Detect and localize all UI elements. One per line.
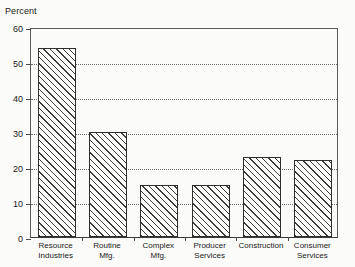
gridline — [31, 134, 337, 135]
gridline — [31, 204, 337, 205]
bar-chart: Percent 0102030405060 Resource Industrie… — [0, 0, 355, 267]
y-tick-label: 40 — [13, 94, 23, 104]
bar — [294, 160, 332, 237]
y-tick-label: 10 — [13, 199, 23, 209]
bar — [243, 157, 281, 238]
bar — [89, 132, 127, 237]
x-axis-label: Resource Industries — [30, 241, 81, 260]
y-tick-label: 20 — [13, 164, 23, 174]
y-tick-label: 0 — [18, 234, 23, 244]
x-axis-label: Complex Mfg. — [133, 241, 184, 260]
y-tick-mark — [26, 134, 31, 135]
y-tick-label: 30 — [13, 129, 23, 139]
x-axis-label: Consumer Services — [287, 241, 338, 260]
y-tick-label: 60 — [13, 24, 23, 34]
y-tick-label: 50 — [13, 59, 23, 69]
gridline — [31, 64, 337, 65]
x-axis-label: Routine Mfg. — [81, 241, 132, 260]
y-tick-mark — [26, 99, 31, 100]
y-tick-mark — [26, 64, 31, 65]
y-axis-title: Percent — [5, 6, 37, 16]
bar — [192, 185, 230, 238]
x-axis-label: Construction — [235, 241, 286, 251]
bar — [38, 48, 76, 237]
y-tick-mark — [26, 169, 31, 170]
gridline — [31, 169, 337, 170]
plot-area: 0102030405060 — [30, 28, 338, 238]
y-tick-mark — [26, 239, 31, 240]
y-tick-mark — [26, 29, 31, 30]
gridline — [31, 99, 337, 100]
y-tick-mark — [26, 204, 31, 205]
x-axis-label: Producer Services — [184, 241, 235, 260]
bar — [140, 185, 178, 238]
